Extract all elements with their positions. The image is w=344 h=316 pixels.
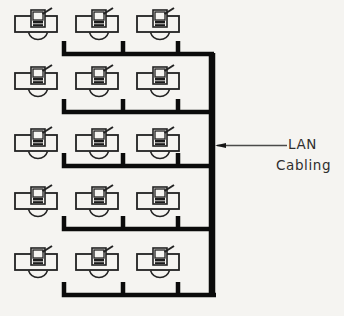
lan-cabling-diagram: LAN Cabling: [0, 0, 344, 316]
callout-label-line2: Cabling: [276, 157, 331, 173]
callout-label-line1: LAN: [288, 136, 317, 152]
diagram-svg: LAN Cabling: [0, 0, 344, 316]
